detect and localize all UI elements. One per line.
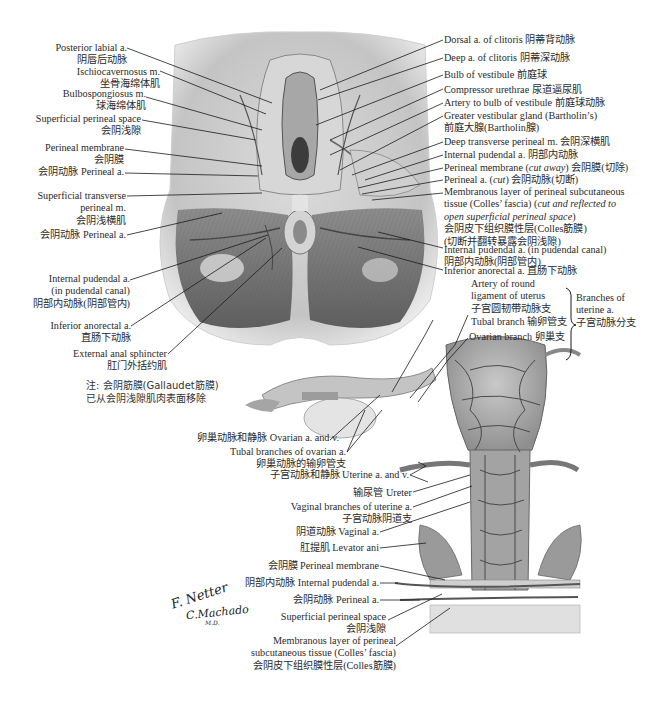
label-line-2: ligament of uterus xyxy=(471,290,551,302)
label-en: External anal sphincter xyxy=(73,348,167,360)
label-vaginal-branches-uterine-a: Vaginal branches of uterine a. 子宫动脉阴道支 xyxy=(291,501,412,526)
label-zh: 会阴浅隙 xyxy=(36,125,141,137)
label-zh: 阴部内动脉(阴部管内) xyxy=(33,298,130,310)
label-en: Perineal membrane xyxy=(45,142,124,154)
label-text: Dorsal a. of clitoris 阴蒂背动脉 xyxy=(444,34,575,45)
label-artery-bulb-vestibule: Artery to bulb of vestibule 前庭球动脉 xyxy=(444,97,605,109)
label-deep-transverse-perineal-m: Deep transverse perineal m. 会阴深横肌 xyxy=(444,136,610,148)
label-line-1: Artery of round xyxy=(471,278,551,290)
label-vaginal-a: 阴道动脉 Vaginal a. xyxy=(296,526,379,538)
label-tubal-branches-ovarian-a: Tubal branches of ovarian a. 卵巢动脉的输卵管支 xyxy=(230,446,346,471)
label-line-2: uterine a. xyxy=(576,304,636,316)
label-inferior-anorectal-a-right: Inferior anorectal a. 直肠下动脉 xyxy=(444,265,577,277)
label-dorsal-a-clitoris: Dorsal a. of clitoris 阴蒂背动脉 xyxy=(444,34,575,46)
label-zh: 球海绵体肌 xyxy=(63,100,146,112)
label-compressor-urethrae: Compressor urethrae 尿道逼尿肌 xyxy=(444,84,582,96)
label-zh: 子宫动脉分支 xyxy=(576,317,636,329)
label-text: 阴道动脉 Vaginal a. xyxy=(296,526,379,537)
label-zh: 会阴膜 xyxy=(45,154,124,166)
label-text: Perineal a. ( xyxy=(444,174,493,185)
label-text: ) 会阴动脉(切断) xyxy=(505,174,578,185)
label-bulb-of-vestibule: Bulb of vestibule 前庭球 xyxy=(444,69,547,81)
label-en-2: (in pudendal canal) xyxy=(33,285,130,297)
label-zh-1: 会阴皮下组织膜性层(Colles筋膜) xyxy=(444,223,625,235)
label-perineal-a-upper: 会阴动脉 Perineal a. xyxy=(38,166,124,178)
label-text: Greater vestibular gland (Bartholin’s) xyxy=(444,110,597,122)
label-ovarian-branch: Ovarian branch 卵巢支 xyxy=(469,331,565,343)
label-zh: 会阴皮下组织膜性层(Colles筋膜) xyxy=(251,660,396,672)
label-text: ) 会阴膜(切除) xyxy=(565,162,628,173)
label-line-1: Branches of xyxy=(576,292,636,304)
label-levator-ani: 肛提肌 Levator ani xyxy=(300,542,379,554)
label-greater-vestibular-gland: Greater vestibular gland (Bartholin’s) 前… xyxy=(444,110,597,135)
note-line-2: 已从会阴浅隙肌肉表面移除 xyxy=(86,392,219,405)
label-en: Superficial transverse xyxy=(37,190,126,202)
label-perineal-membrane-cut-away: Perineal membrane (cut away) 会阴膜(切除) xyxy=(444,162,628,174)
label-line-1: Membranous layer of perineal subcutaneou… xyxy=(444,186,625,198)
label-en: Bulbospongiosus m. xyxy=(63,88,146,100)
label-text: 阴部内动脉 Internal pudendal a. xyxy=(245,577,379,588)
label-zh: 肛门外括约肌 xyxy=(73,360,167,372)
label-perineal-membrane-bottom: 会阴膜 Perineal membrane xyxy=(268,560,379,572)
label-line-2: tissue (Colles’ fascia) ( xyxy=(444,198,537,209)
label-zh: 直肠下动脉 xyxy=(50,332,131,344)
label-perineal-a-lower: 会阴动脉 Perineal a. xyxy=(40,229,126,241)
label-text: Tubal branches of ovarian a. xyxy=(230,446,346,458)
label-perineal-a-bottom: 会阴动脉 Perineal a. xyxy=(293,594,379,606)
label-deep-a-clitoris: Deep a. of clitoris 阴蒂深动脉 xyxy=(444,52,570,64)
label-posterior-labial-a: Posterior labial a. 阴唇后动脉 xyxy=(55,42,127,67)
label-italic: cut away xyxy=(529,162,566,173)
label-ovarian-a-and-v: 卵巢动脉和静脉 Ovarian a. and v. xyxy=(197,432,339,444)
label-zh: 子宫圆韧带动脉支 xyxy=(471,303,551,315)
label-line-3-italic: open superficial perineal space xyxy=(444,211,572,222)
note-line-1: 注: 会阴筋膜(Gallaudet筋膜) xyxy=(86,379,219,392)
label-superficial-transverse-perineal-m: Superficial transverse perineal m. 会阴浅横肌 xyxy=(37,190,126,227)
label-en-2: perineal m. xyxy=(37,202,126,214)
label-internal-pudendal-a-right: Internal pudendal a. 阴部内动脉 xyxy=(444,149,578,161)
label-text: Ovarian branch 卵巢支 xyxy=(469,331,565,342)
label-en: Ischiocavernosus m. xyxy=(77,66,160,78)
label-colles-fascia-bottom: Membranous layer of perineal subcutaneou… xyxy=(251,635,396,672)
label-uterine-a-and-v: 子宫动脉和静脉 Uterine a. and v. xyxy=(270,469,410,481)
label-en: Internal pudendal a. xyxy=(33,273,130,285)
label-superficial-perineal-space: Superficial perineal space 会阴浅隙 xyxy=(36,113,141,138)
label-internal-pudendal-a-canal: Internal pudendal a. (in pudendal canal)… xyxy=(33,273,130,310)
label-text: 子宫动脉和静脉 Uterine a. and v. xyxy=(270,469,410,480)
label-en: Posterior labial a. xyxy=(55,42,127,54)
label-text: Deep transverse perineal m. 会阴深横肌 xyxy=(444,136,610,147)
label-text: 卵巢动脉和静脉 Ovarian a. and v. xyxy=(197,432,339,443)
label-text: Bulb of vestibule 前庭球 xyxy=(444,69,547,80)
label-en: Superficial perineal space xyxy=(36,113,141,125)
label-text: Internal pudendal a. (in pudendal canal) xyxy=(444,244,606,256)
label-tubal-branch: Tubal branch 输卵管支 xyxy=(471,316,567,328)
label-zh: 子宫动脉阴道支 xyxy=(291,513,412,525)
label-branches-of-uterine-a: Branches of uterine a. 子宫动脉分支 xyxy=(576,292,636,329)
label-perineal-a-cut: Perineal a. (cut) 会阴动脉(切断) xyxy=(444,174,578,186)
label-text: Compressor urethrae 尿道逼尿肌 xyxy=(444,84,582,95)
label-text: Internal pudendal a. 阴部内动脉 xyxy=(444,149,578,160)
label-en: Inferior anorectal a. xyxy=(50,320,131,332)
note-gallaudet-fascia: 注: 会阴筋膜(Gallaudet筋膜) 已从会阴浅隙肌肉表面移除 xyxy=(86,379,219,405)
label-zh: 会阴浅横肌 xyxy=(37,215,126,227)
md-signature: M.D. xyxy=(205,619,220,626)
label-line-2: subcutaneous tissue (Colles’ fascia) xyxy=(251,647,396,659)
label-external-anal-sphincter: External anal sphincter 肛门外括约肌 xyxy=(73,348,167,373)
label-zh: 会阴浅隙 xyxy=(281,623,386,635)
label-internal-pudendal-a-bottom: 阴部内动脉 Internal pudendal a. xyxy=(245,577,379,589)
label-line-3: ) xyxy=(572,211,575,222)
label-artery-round-ligament: Artery of round ligament of uterus 子宫圆韧带… xyxy=(471,278,551,315)
label-en: 会阴动脉 Perineal a. xyxy=(38,166,124,178)
label-ureter: 输尿管 Ureter xyxy=(353,487,412,499)
label-text: Artery to bulb of vestibule 前庭球动脉 xyxy=(444,97,605,108)
label-line-1: Membranous layer of perineal xyxy=(251,635,396,647)
label-text: Superficial perineal space xyxy=(281,611,386,623)
label-text: Inferior anorectal a. 直肠下动脉 xyxy=(444,265,577,276)
label-text: Tubal branch 输卵管支 xyxy=(471,316,567,327)
label-zh: 阴唇后动脉 xyxy=(55,54,127,66)
label-bulbospongiosus: Bulbospongiosus m. 球海绵体肌 xyxy=(63,88,146,113)
label-text: 会阴动脉 Perineal a. xyxy=(293,594,379,605)
label-text: 会阴膜 Perineal membrane xyxy=(268,560,379,571)
label-text: 肛提肌 Levator ani xyxy=(300,542,379,553)
label-en: 会阴动脉 Perineal a. xyxy=(40,229,126,241)
label-text: Perineal membrane ( xyxy=(444,162,529,173)
